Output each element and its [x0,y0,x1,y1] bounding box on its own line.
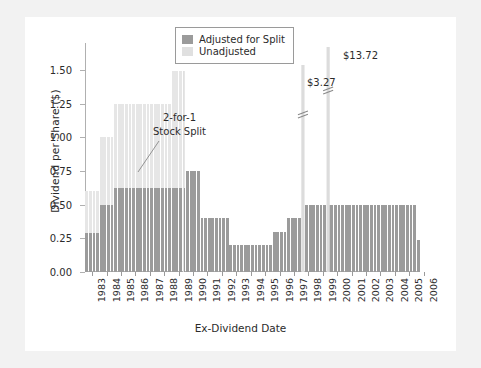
y-tick-label-0.50: 0.50 [50,199,72,210]
y-tick-0.75: 0.75 [80,171,85,172]
bar-2002-q2 [363,43,366,272]
bar-segment-adjusted [107,205,110,272]
bar-1991-q4 [211,43,214,272]
bar-1993-q2 [233,43,236,272]
bar-segment-unadjusted [132,104,135,188]
bar-1989-q1 [172,43,175,272]
bar-1998-q1 [302,43,305,272]
bar-2001-q3 [352,43,355,272]
bar-segment-adjusted [208,218,211,272]
bar-1996-q4 [284,43,287,272]
bar-2002-q1 [359,43,362,272]
bar-segment-adjusted [348,205,351,272]
bar-segment-adjusted [147,188,150,272]
x-tick-label-1997: 1997 [298,278,309,302]
x-tick-1999 [323,272,324,276]
bar-1993-q4 [240,43,243,272]
bar-segment-adjusted [284,232,287,272]
bar-segment-adjusted [251,245,254,272]
x-tick-label-1993: 1993 [240,278,251,302]
y-tick-1.50: 1.50 [80,70,85,71]
bar-segment-adjusted [269,245,272,272]
bar-segment-adjusted [161,188,164,272]
bar-segment-adjusted [111,205,114,272]
x-tick-2004 [395,272,396,276]
bar-1997-q1 [287,43,290,272]
y-tick-label-1.00: 1.00 [50,132,72,143]
x-tick-label-2005: 2005 [413,278,424,302]
bar-segment-adjusted [114,188,117,272]
bar-1983-q4 [96,43,99,272]
bar-1996-q2 [276,43,279,272]
bar-1994-q2 [247,43,250,272]
bar-segment-unadjusted [111,137,114,204]
bar-segment-adjusted [125,188,128,272]
x-tick-label-1984: 1984 [111,278,122,302]
x-tick-1988 [164,272,165,276]
bar-1986-q3 [136,43,139,272]
x-tick-1989 [179,272,180,276]
bar-segment-adjusted [309,205,312,272]
bar-segment-adjusted [255,245,258,272]
bar-segment-adjusted [392,205,395,272]
x-tick-2001 [352,272,353,276]
bar-2004-q2 [392,43,395,272]
bar-segment-adjusted [262,245,265,272]
bar-segment-adjusted [93,233,96,272]
bar-1994-q3 [251,43,254,272]
x-tick-2006 [424,272,425,276]
bar-segment-unadjusted [129,104,132,188]
annotation-spike-13-72: $13.72 [343,50,378,61]
bar-1991-q2 [204,43,207,272]
bar-segment-adjusted [341,205,344,272]
x-tick-2003 [380,272,381,276]
x-tick-1998 [308,272,309,276]
bar-segment-adjusted [276,232,279,272]
bar-segment-adjusted [103,205,106,272]
y-tick-label-1.25: 1.25 [50,98,72,109]
x-tick-1996 [280,272,281,276]
bar-segment-adjusted [280,232,283,272]
bar-1992-q1 [215,43,218,272]
bar-segment-unadjusted [89,191,92,233]
bar-segment-adjusted [172,188,175,272]
bar-segment-adjusted [211,218,214,272]
bar-1994-q1 [244,43,247,272]
bar-segment-adjusted [417,240,420,272]
x-tick-label-2004: 2004 [399,278,410,302]
x-tick-1983 [92,272,93,276]
bar-1997-q4 [298,43,301,272]
bar-segment-adjusted [266,245,269,272]
bar-1988-q2 [161,43,164,272]
bar-1991-q1 [201,43,204,272]
bar-segment-adjusted [96,233,99,272]
bar-segment-adjusted [312,205,315,272]
x-tick-2002 [366,272,367,276]
bar-2001-q2 [348,43,351,272]
bar-segment-adjusted [222,218,225,272]
bar-segment-adjusted [377,205,380,272]
bar-segment-adjusted [298,218,301,272]
bar-1997-q3 [294,43,297,272]
bar-segment-adjusted [85,233,88,272]
legend-item-adjusted: Adjusted for Split [182,34,285,45]
bar-1985-q3 [121,43,124,272]
bar-segment-adjusted [406,205,409,272]
bar-segment-adjusted [370,205,373,272]
bar-segment-adjusted [89,233,92,272]
x-tick-label-1991: 1991 [211,278,222,302]
bar-1988-q4 [168,43,171,272]
bar-segment-unadjusted [96,191,99,233]
x-tick-2005 [409,272,410,276]
bar-segment-adjusted [179,188,182,272]
bar-1984-q3 [107,43,110,272]
bar-segment-adjusted [320,205,323,272]
x-tick-1993 [236,272,237,276]
bar-segment-adjusted [302,205,305,272]
bar-segment-adjusted [381,205,384,272]
bar-2004-q1 [388,43,391,272]
bar-segment-adjusted [237,245,240,272]
bar-1988-q1 [157,43,160,272]
bar-1987-q3 [150,43,153,272]
bar-segment-unadjusted [107,137,110,204]
